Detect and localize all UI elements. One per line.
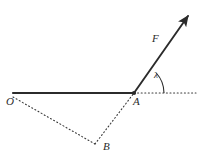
- label-angle-lambda: λ: [154, 71, 158, 80]
- label-point-b: B: [103, 141, 110, 152]
- segment-OB-dotted: [13, 97, 95, 144]
- label-force-vector-f: F: [152, 33, 159, 44]
- label-point-a: A: [133, 96, 140, 107]
- label-point-o: O: [6, 96, 14, 107]
- segment-BA-dotted: [95, 93, 134, 144]
- figure-diagram: O A B F λ: [0, 0, 208, 167]
- force-vector-arrow: [134, 16, 188, 93]
